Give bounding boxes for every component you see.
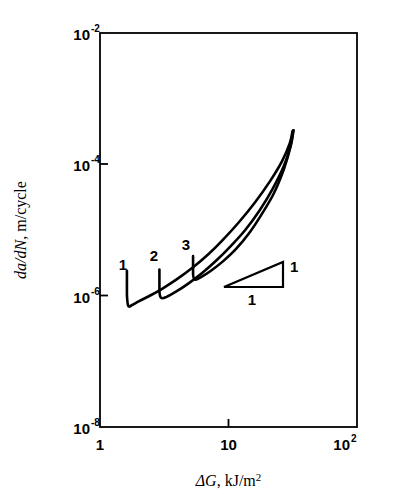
- x-axis-title: ΔG, kJ/m2: [195, 471, 262, 489]
- y-axis-title-text: da/dN, m/cycle: [12, 181, 30, 279]
- slope-triangle-run-label: 1: [248, 291, 256, 308]
- y-tick-label-1e-2-mantissa: 10: [73, 26, 90, 43]
- x-tick-labels: 1 10 10 2: [96, 433, 357, 453]
- curve-label-3: 3: [182, 236, 190, 253]
- curve-label-1: 1: [119, 256, 127, 273]
- y-axis-title-units: , m/cycle: [12, 181, 30, 240]
- curve-series-1: [127, 131, 293, 306]
- x-axis-title-superscript: 2: [256, 471, 262, 483]
- y-tick-label-1e-2-exponent: -2: [91, 23, 100, 34]
- y-tick-labels: 10 -2 10 -4 10 -6 10 -8: [73, 23, 100, 437]
- slope-triangle: 1 1: [224, 258, 298, 308]
- y-axis-ticks: [100, 164, 108, 296]
- x-tick-label-100-mantissa: 10: [333, 436, 350, 453]
- x-axis-title-symbol: ΔG: [195, 472, 217, 489]
- fatigue-crack-growth-chart: 10 -2 10 -4 10 -6 10 -8 1 10 10 2 ΔG, kJ…: [0, 0, 393, 504]
- data-curves: [127, 130, 293, 306]
- slope-triangle-shape: [224, 262, 283, 287]
- curve-label-2: 2: [150, 247, 158, 264]
- figure-container: 10 -2 10 -4 10 -6 10 -8 1 10 10 2 ΔG, kJ…: [0, 0, 393, 504]
- x-tick-label-100-exponent: 2: [351, 433, 357, 444]
- slope-triangle-rise-label: 1: [290, 258, 298, 275]
- curve-labels: 1 2 3: [119, 236, 190, 273]
- x-axis-title-text: ΔG, kJ/m2: [195, 471, 262, 489]
- curve-series-2: [159, 130, 293, 298]
- y-axis-title-symbol: da/dN: [12, 238, 29, 278]
- x-axis-title-units: , kJ/m: [217, 472, 257, 489]
- y-tick-label-1e-4-mantissa: 10: [73, 157, 90, 174]
- y-axis-title: da/dN, m/cycle: [12, 181, 30, 279]
- y-tick-label-1e-6-mantissa: 10: [73, 289, 90, 306]
- curve-series-3: [193, 130, 293, 279]
- x-tick-label-1: 1: [96, 436, 104, 453]
- x-tick-label-10: 10: [220, 436, 237, 453]
- y-tick-label-1e-6-exponent: -6: [91, 286, 100, 297]
- y-tick-label-1e-4-exponent: -4: [91, 154, 100, 165]
- plot-frame: [100, 33, 357, 427]
- y-tick-label-1e-8-mantissa: 10: [73, 420, 90, 437]
- y-tick-label-1e-8-exponent: -8: [91, 417, 100, 428]
